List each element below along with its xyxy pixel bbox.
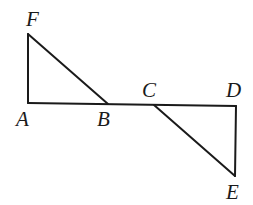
- label-b: B: [97, 107, 110, 131]
- segment-de: [235, 106, 236, 176]
- label-d: D: [225, 78, 241, 102]
- geometry-diagram: F A B C D E: [0, 0, 253, 205]
- label-f: F: [25, 7, 39, 31]
- label-c: C: [142, 78, 157, 102]
- label-a: A: [14, 107, 29, 131]
- segment-ad: [28, 103, 236, 106]
- segment-fb: [28, 34, 108, 104]
- segment-ce: [154, 105, 235, 176]
- label-e: E: [225, 180, 239, 204]
